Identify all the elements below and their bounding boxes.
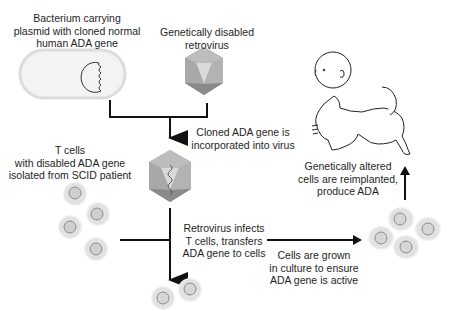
transduced-tcells-icon <box>151 278 202 310</box>
label-line: Cells are grown <box>264 249 364 262</box>
label-line: retrovirus <box>152 39 262 52</box>
label-retrovirus: Genetically disabled retrovirus <box>152 26 262 51</box>
label-line: T cells <box>4 144 136 157</box>
label-line: T cells, transfers <box>176 235 272 248</box>
cultured-cells-icon <box>368 207 441 259</box>
label-tcells: T cells with disabled ADA gene isolated … <box>4 144 136 182</box>
reimplant-arrow <box>400 166 410 200</box>
label-line: produce ADA <box>296 185 400 198</box>
infection-connector <box>120 208 170 280</box>
label-line: plasmid with cloned normal <box>2 25 152 38</box>
label-reimplanted: Genetically altered cells are reimplante… <box>296 160 400 198</box>
label-incorporated: Cloned ADA gene is incorporated into vir… <box>178 126 308 151</box>
recombinant-virus-icon <box>149 150 191 202</box>
label-line: Genetically altered <box>296 160 400 173</box>
label-line: Retrovirus infects <box>176 222 272 235</box>
label-line: ADA gene to cells <box>176 247 272 260</box>
label-line: in culture to ensure <box>264 262 364 275</box>
label-line: cells are reimplanted, <box>296 173 400 186</box>
label-line: Genetically disabled <box>152 26 262 39</box>
label-bacterium: Bacterium carrying plasmid with cloned n… <box>2 12 152 50</box>
label-line: incorporated into virus <box>178 139 308 152</box>
retrovirus-icon <box>185 47 223 95</box>
baby-icon <box>312 52 410 155</box>
bacterium-icon <box>20 50 125 98</box>
culture-arrow <box>267 235 362 245</box>
label-line: Bacterium carrying <box>2 12 152 25</box>
patient-tcells-icon <box>58 182 110 261</box>
label-line: Cloned ADA gene is <box>178 126 308 139</box>
label-infects: Retrovirus infects T cells, transfers AD… <box>176 222 272 260</box>
label-line: ADA gene is active <box>264 274 364 287</box>
label-line: isolated from SCID patient <box>4 169 136 182</box>
label-culture: Cells are grown in culture to ensure ADA… <box>264 249 364 287</box>
label-line: human ADA gene <box>2 37 152 50</box>
label-line: with disabled ADA gene <box>4 157 136 170</box>
